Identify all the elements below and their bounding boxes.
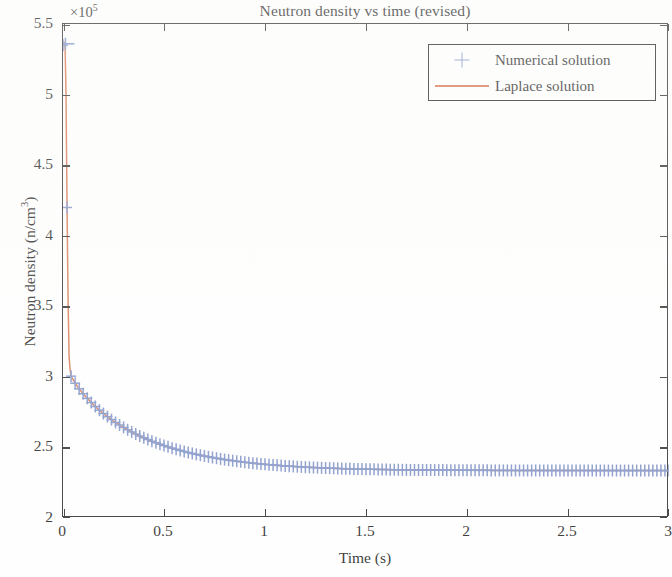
x-tick-top-4 [467, 24, 468, 31]
x-tick-label-4: 2 [462, 522, 470, 540]
numerical-marker [63, 201, 72, 213]
legend-sample-laplace [429, 73, 495, 99]
y-tick-right-5 [660, 165, 667, 166]
x-tick-label-2: 1 [260, 522, 268, 540]
y-tick-right-3 [660, 306, 667, 307]
y-tick-right-6 [660, 95, 667, 96]
x-tick-top-5 [568, 24, 569, 31]
x-tick-0 [64, 509, 65, 516]
x-tick-label-0: 0 [58, 522, 66, 540]
y-tick-label-0: 2 [0, 508, 53, 526]
y-tick-label-6: 5 [0, 85, 53, 103]
x-axis-label: Time (s) [62, 549, 668, 567]
x-tick-2 [265, 509, 266, 516]
legend-entry-laplace-solution[interactable]: Laplace solution [429, 73, 657, 99]
y-tick-0 [63, 517, 70, 518]
chart-legend[interactable]: Numerical solution Laplace solution [428, 44, 656, 101]
y-tick-right-0 [660, 517, 667, 518]
y-tick-right-1 [660, 447, 667, 448]
numerical-marker-peak [63, 38, 74, 50]
y-tick-label-7: 5.5 [0, 14, 53, 32]
legend-label-laplace: Laplace solution [495, 78, 595, 95]
y-tick-3 [63, 306, 70, 307]
y-tick-6 [63, 95, 70, 96]
line-sample-icon [435, 85, 489, 87]
y-tick-right-2 [660, 377, 667, 378]
y-axis-exponent-label: ×105 [70, 2, 98, 21]
exponent-power: 5 [93, 2, 98, 13]
laplace-solution-path [63, 43, 669, 471]
numerical-solution-markers [63, 38, 669, 477]
y-tick-2 [63, 377, 70, 378]
y-tick-4 [63, 236, 70, 237]
y-axis-label-main: Neutron density (n/cm [21, 207, 38, 346]
x-tick-5 [568, 509, 569, 516]
y-tick-right-4 [660, 236, 667, 237]
y-tick-5 [63, 165, 70, 166]
y-axis-label-tail: ) [21, 197, 38, 202]
figure-canvas: Neutron density vs time (revised) ×105 0… [0, 0, 672, 577]
x-tick-top-2 [265, 24, 266, 31]
y-tick-7 [63, 25, 70, 26]
y-tick-label-1: 2.5 [0, 437, 53, 455]
x-tick-6 [668, 509, 669, 516]
y-tick-1 [63, 447, 70, 448]
plus-marker-icon [455, 53, 470, 68]
y-tick-right-7 [660, 25, 667, 26]
x-tick-1 [164, 509, 165, 516]
exponent-mantissa: ×10 [70, 4, 93, 20]
chart-title: Neutron density vs time (revised) [62, 2, 668, 20]
legend-sample-numerical [429, 47, 495, 73]
x-tick-label-6: 3 [664, 522, 672, 540]
x-tick-label-3: 1.5 [355, 522, 374, 540]
x-tick-3 [366, 509, 367, 516]
y-axis-label-exponent: 3 [19, 202, 30, 207]
x-tick-label-5: 2.5 [557, 522, 576, 540]
x-tick-label-1: 0.5 [153, 522, 172, 540]
legend-entry-numerical-solution[interactable]: Numerical solution [429, 47, 657, 73]
laplace-solution-line [63, 43, 669, 471]
x-tick-top-1 [164, 24, 165, 31]
y-axis-label: Neutron density (n/cm3) [19, 132, 38, 412]
x-tick-4 [467, 509, 468, 516]
x-tick-top-6 [668, 24, 669, 31]
legend-label-numerical: Numerical solution [495, 52, 610, 69]
x-tick-top-3 [366, 24, 367, 31]
